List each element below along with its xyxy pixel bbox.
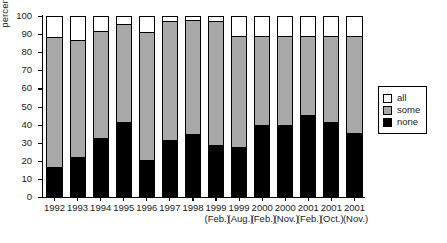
black-swatch-icon [383, 118, 392, 127]
x-tick [146, 197, 147, 201]
x-label-year: 2001 [343, 202, 366, 213]
segment-none [94, 139, 108, 196]
y-tick: 40 [38, 125, 42, 126]
segment-none [71, 158, 85, 196]
segment-none [209, 146, 223, 196]
x-label-month: (Nov.) [274, 213, 297, 224]
segment-none [301, 116, 315, 196]
x-tick [100, 197, 101, 201]
x-label-year: 1992 [43, 202, 66, 213]
segment-none [163, 141, 177, 196]
y-tick-label: 20 [8, 156, 32, 166]
bar-1993 [70, 16, 86, 197]
x-axis-label: 1993 [66, 202, 89, 213]
x-label-year: 2000 [274, 202, 297, 213]
segment-some [163, 21, 177, 140]
x-axis-label: 1998 [181, 202, 204, 213]
segment-some [47, 37, 61, 168]
x-axis-line [42, 197, 365, 198]
segment-some [347, 36, 361, 135]
bar-1999-Feb [208, 16, 224, 197]
legend-item-none: none [383, 117, 420, 127]
legend-item-some: some [383, 105, 420, 115]
segment-some [301, 36, 315, 117]
y-tick: 0 [38, 197, 42, 198]
bar-2000-Feb [254, 16, 270, 197]
y-tick-label: 50 [8, 102, 32, 112]
x-label-year: 2000 [251, 202, 274, 213]
x-label-year: 1998 [181, 202, 204, 213]
segment-none [324, 123, 338, 196]
x-label-year: 1997 [158, 202, 181, 213]
x-tick [192, 197, 193, 201]
bar-1992 [46, 16, 62, 197]
y-tick: 50 [38, 107, 42, 108]
y-tick-label: 70 [8, 66, 32, 76]
segment-none [347, 134, 361, 196]
x-label-month: (Aug.) [228, 213, 251, 224]
bar-2001-Feb [300, 16, 316, 197]
segment-some [232, 36, 246, 148]
x-label-year: 1994 [89, 202, 112, 213]
x-label-month: (Nov.) [343, 213, 366, 224]
x-label-year: 1993 [66, 202, 89, 213]
segment-some [117, 24, 131, 123]
x-tick [239, 197, 240, 201]
segment-none [186, 135, 200, 196]
segment-some [94, 31, 108, 139]
x-label-year: 1999 [205, 202, 228, 213]
y-tick-label: 10 [8, 174, 32, 184]
x-axis-label: 1997 [158, 202, 181, 213]
y-tick: 60 [38, 88, 42, 89]
y-tick: 20 [38, 161, 42, 162]
x-label-year: 2001 [297, 202, 320, 213]
x-axis-label: 1996 [135, 202, 158, 213]
x-tick [215, 197, 216, 201]
x-label-year: 1995 [112, 202, 135, 213]
segment-some [186, 20, 200, 136]
segment-none [47, 168, 61, 196]
bar-2001-Nov [346, 16, 362, 197]
bar-2000-Nov [277, 16, 293, 197]
x-axis-label: 1995 [112, 202, 135, 213]
y-tick-label: 100 [8, 11, 32, 21]
bar-1998 [185, 16, 201, 197]
y-tick: 80 [38, 52, 42, 53]
y-tick: 90 [38, 34, 42, 35]
y-tick-label: 40 [8, 120, 32, 130]
segment-some [278, 36, 292, 127]
x-tick [354, 197, 355, 201]
x-tick [308, 197, 309, 201]
x-axis-label: 1994 [89, 202, 112, 213]
segment-none [232, 148, 246, 196]
y-axis-line [42, 15, 43, 197]
chart-legend: all some none [378, 86, 427, 134]
segment-some [209, 21, 223, 146]
y-tick-label: 60 [8, 84, 32, 94]
x-tick [169, 197, 170, 201]
x-axis-label: 1999(Aug.) [228, 202, 251, 224]
white-swatch-icon [383, 94, 392, 103]
x-label-year: 2001 [320, 202, 343, 213]
x-axis-label: 2000(Feb.) [251, 202, 274, 224]
legend-label-none: none [397, 117, 418, 127]
y-tick: 100 [38, 16, 42, 17]
y-tick: 70 [38, 70, 42, 71]
bar-1995 [116, 16, 132, 197]
segment-none [255, 126, 269, 196]
x-label-year: 1999 [228, 202, 251, 213]
plot-area: 0102030405060708090100 [42, 16, 365, 197]
y-tick: 30 [38, 143, 42, 144]
x-tick [77, 197, 78, 201]
bar-1997 [162, 16, 178, 197]
segment-some [255, 36, 269, 127]
x-tick [331, 197, 332, 201]
x-tick [123, 197, 124, 201]
bar-1996 [139, 16, 155, 197]
x-axis-label: 2000(Nov.) [274, 202, 297, 224]
y-tick: 10 [38, 179, 42, 180]
segment-some [324, 36, 338, 123]
legend-label-all: all [397, 93, 407, 103]
segment-none [117, 123, 131, 196]
segment-none [140, 161, 154, 196]
